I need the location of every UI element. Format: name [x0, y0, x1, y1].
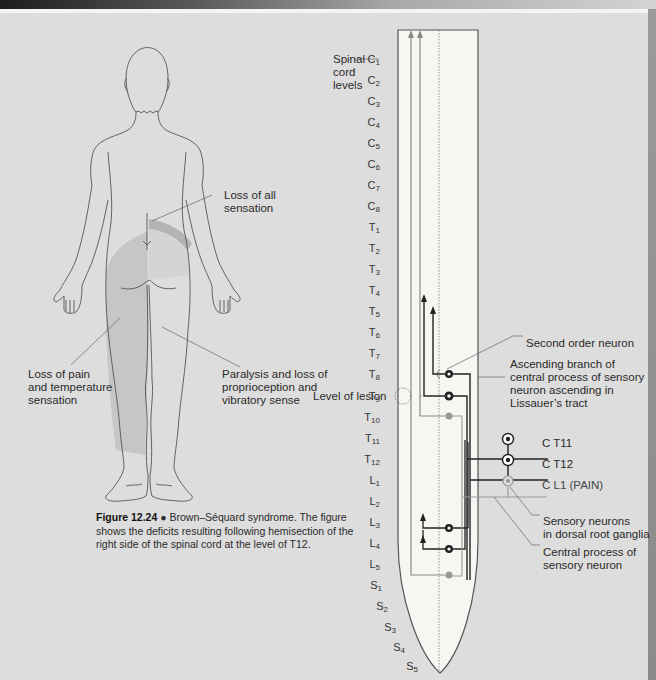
label-line: Loss of pain: [28, 368, 112, 381]
level-c8: C8: [350, 200, 380, 214]
label-line: Central process of: [543, 546, 636, 559]
level-s1: S1: [352, 579, 382, 593]
label-line: proprioception and: [222, 381, 327, 394]
level-t11: T11: [350, 432, 380, 446]
body-figure: [54, 48, 240, 502]
root-level: T11: [553, 437, 572, 449]
label-central-process: Central process of sensory neuron: [543, 546, 636, 572]
top-gradient-bar: [0, 0, 656, 9]
label-line: neuron ascending in: [510, 384, 644, 397]
level-c6: C6: [350, 158, 380, 172]
cord-outline: [398, 30, 478, 673]
level-t10: T10: [350, 411, 380, 425]
level-t3: T3: [350, 263, 380, 277]
level-s5: S5: [388, 660, 418, 674]
label-loss-all-sensation: Loss of all sensation: [224, 189, 276, 215]
label-line: in dorsal root ganglia: [543, 528, 650, 541]
level-t6: T6: [350, 326, 380, 340]
level-s3: S3: [366, 621, 396, 635]
label-line: Sensory neurons: [543, 515, 650, 528]
label-second-order-neuron: Second order neuron: [526, 337, 634, 350]
label-line: central process of sensory: [510, 371, 644, 384]
level-t1: T1: [350, 221, 380, 235]
label-line: Lissauer’s tract: [510, 397, 644, 410]
level-c1: C1: [350, 53, 380, 67]
root-level: T12: [553, 458, 573, 470]
label-root-l1-pain: C L1 (PAIN): [542, 479, 603, 492]
label-root-t12: C T12: [542, 458, 573, 471]
level-l2: L2: [350, 495, 380, 509]
level-t2: T2: [350, 242, 380, 256]
label-line: Loss of all: [224, 189, 276, 202]
level-t9: T9: [350, 390, 380, 404]
level-c2: C2: [350, 74, 380, 88]
root-level: L1 (PAIN): [554, 479, 604, 491]
level-t5: T5: [350, 305, 380, 319]
level-t7: T7: [350, 347, 380, 361]
label-line: Ascending branch of: [510, 358, 644, 371]
level-l3: L3: [350, 516, 380, 530]
label-line: sensory neuron: [543, 559, 636, 572]
label-line: Paralysis and loss of: [222, 368, 327, 381]
loss-pain-temp-region: [106, 232, 149, 455]
right-edge-bar: [648, 9, 656, 680]
label-line: vibratory sense: [222, 394, 327, 407]
level-s4: S4: [375, 641, 405, 655]
label-line: and temperature: [28, 381, 112, 394]
level-c5: C5: [350, 137, 380, 151]
caption-bullet: ●: [160, 511, 166, 523]
spinal-cord: [395, 30, 548, 673]
figure-page: Loss of all sensation Loss of pain and t…: [0, 13, 648, 680]
label-sensory-neurons: Sensory neurons in dorsal root ganglia: [543, 515, 650, 541]
level-t12: T12: [350, 453, 380, 467]
level-l4: L4: [350, 537, 380, 551]
level-c7: C7: [350, 179, 380, 193]
label-ascending-branch: Ascending branch of central process of s…: [510, 358, 644, 410]
figure-caption: Figure 12.24 ● Brown–Séquard syndrome. T…: [96, 511, 366, 552]
level-l1: L1: [350, 474, 380, 488]
level-c3: C3: [350, 95, 380, 109]
label-root-t11: C T11: [542, 437, 572, 450]
label-loss-pain-temperature: Loss of pain and temperature sensation: [28, 368, 112, 407]
level-t4: T4: [350, 284, 380, 298]
label-paralysis: Paralysis and loss of proprioception and…: [222, 368, 327, 407]
level-t8: T8: [350, 368, 380, 382]
level-s2: S2: [358, 600, 388, 614]
label-line: sensation: [224, 202, 276, 215]
label-line: sensation: [28, 394, 112, 407]
figure-number: Figure 12.24: [96, 511, 157, 523]
level-c4: C4: [350, 116, 380, 130]
level-l5: L5: [350, 558, 380, 572]
